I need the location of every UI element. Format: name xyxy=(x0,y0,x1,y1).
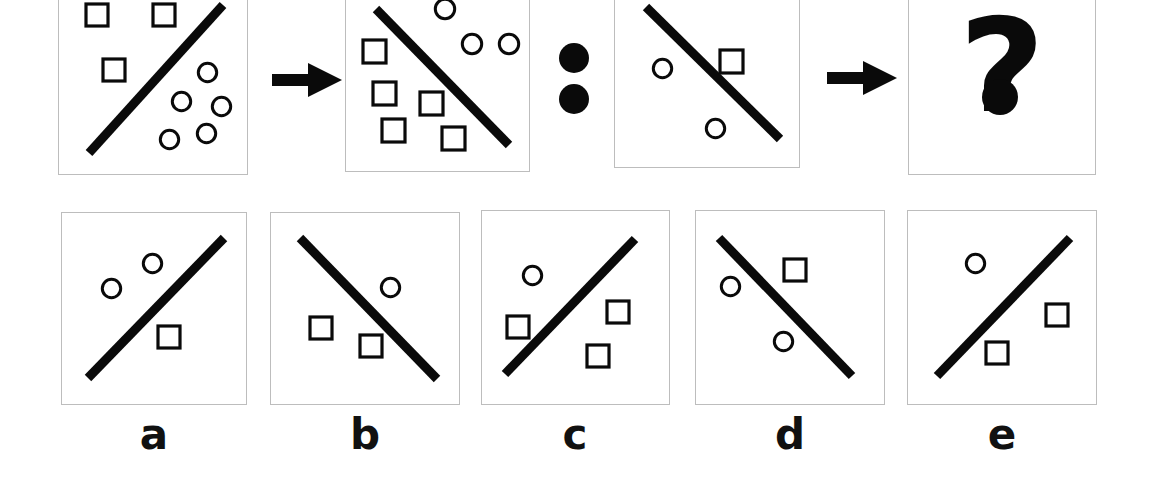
option-panel-b[interactable] xyxy=(270,212,460,405)
square-marker xyxy=(153,4,175,26)
source-panel-2-graphic xyxy=(346,0,531,173)
option-panel-d[interactable] xyxy=(695,210,885,405)
arrow-head xyxy=(863,61,897,95)
circle-marker xyxy=(102,279,120,297)
option-panel-c-graphic xyxy=(482,211,671,406)
decision-boundary-line xyxy=(937,238,1070,376)
square-marker xyxy=(310,317,332,339)
square-marker xyxy=(1046,304,1068,326)
square-marker xyxy=(103,59,125,81)
option-label-d[interactable]: d xyxy=(750,414,830,456)
circle-marker xyxy=(212,97,230,115)
square-marker xyxy=(360,335,382,357)
circle-marker xyxy=(653,59,671,77)
square-marker xyxy=(986,342,1008,364)
arrow-shaft xyxy=(272,74,312,86)
source-panel-2 xyxy=(345,0,530,172)
square-marker xyxy=(587,345,609,367)
option-label-b[interactable]: b xyxy=(325,414,405,456)
decision-boundary-line xyxy=(376,9,509,145)
square-marker xyxy=(363,40,386,63)
circle-marker xyxy=(172,92,190,110)
option-panel-a[interactable] xyxy=(61,212,247,405)
arrow-right-icon xyxy=(827,60,897,96)
circle-marker xyxy=(160,130,178,148)
puzzle-stage: ?abcde xyxy=(0,0,1153,503)
circle-marker xyxy=(721,277,739,295)
circle-marker xyxy=(198,63,216,81)
square-marker xyxy=(373,82,396,105)
arrow-head xyxy=(308,63,342,97)
colon-icon-dot-1 xyxy=(559,43,589,73)
decision-boundary-line xyxy=(88,238,224,378)
circle-marker xyxy=(435,0,454,19)
square-marker xyxy=(86,4,108,26)
option-panel-a-graphic xyxy=(62,213,248,406)
source-panel-3 xyxy=(614,0,800,168)
square-marker xyxy=(382,119,405,142)
colon-icon-dot-2 xyxy=(559,84,589,114)
option-panel-e-graphic xyxy=(908,211,1098,406)
square-marker xyxy=(720,50,743,73)
square-marker xyxy=(158,326,180,348)
option-label-e[interactable]: e xyxy=(962,414,1042,456)
circle-marker xyxy=(706,119,724,137)
circle-marker xyxy=(381,278,399,296)
option-panel-b-graphic xyxy=(271,213,461,406)
option-panel-e[interactable] xyxy=(907,210,1097,405)
source-panel-1 xyxy=(58,0,248,175)
circle-marker xyxy=(774,332,792,350)
source-panel-1-graphic xyxy=(59,0,249,176)
circle-marker xyxy=(197,124,215,142)
circle-marker xyxy=(143,254,161,272)
option-panel-d-graphic xyxy=(696,211,886,406)
square-marker xyxy=(442,127,465,150)
circle-marker xyxy=(966,254,984,272)
square-marker xyxy=(784,259,806,281)
option-label-a[interactable]: a xyxy=(114,414,194,456)
square-marker xyxy=(607,301,629,323)
square-marker xyxy=(420,92,443,115)
circle-marker xyxy=(523,266,541,284)
arrow-shaft xyxy=(827,72,867,84)
circle-marker xyxy=(462,34,481,53)
option-panel-c[interactable] xyxy=(481,210,670,405)
decision-boundary-line xyxy=(505,239,635,374)
source-panel-3-graphic xyxy=(615,0,801,169)
answer-placeholder-panel: ? xyxy=(908,0,1096,175)
option-label-c[interactable]: c xyxy=(535,414,615,456)
arrow-right-icon xyxy=(272,62,342,98)
square-marker xyxy=(507,316,529,338)
question-mark-dot xyxy=(982,79,1018,115)
circle-marker xyxy=(499,34,518,53)
